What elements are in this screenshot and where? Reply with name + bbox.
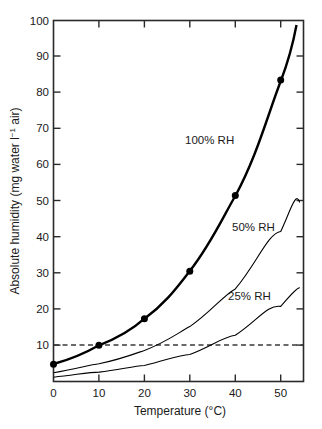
y-axis-title-main: Absolute humidity (mg water l [8, 137, 22, 294]
x-tick-label: 40 [229, 387, 242, 399]
y-tick-label: 90 [36, 50, 49, 62]
annotation-label-25-rh: 25% RH [228, 290, 271, 302]
x-axis-title: Temperature (°C) [134, 404, 226, 418]
y-tick-label: 80 [36, 86, 49, 98]
y-tick-label: 60 [36, 158, 49, 170]
data-point-marker [95, 342, 102, 349]
y-tick-label: 100 [30, 15, 49, 27]
data-point-marker [277, 76, 284, 83]
annotation-label-100-rh: 100% RH [185, 134, 234, 146]
chart-canvas: 100 90 80 70 60 50 40 30 20 10 0 10 20 3… [0, 0, 322, 429]
data-point-marker [141, 315, 148, 322]
x-tick-label: 0 [50, 387, 56, 399]
y-axis-title-tail: air) [8, 107, 22, 128]
data-point-marker [232, 192, 239, 199]
x-tick-label: 20 [138, 387, 151, 399]
x-tick-label: 50 [274, 387, 287, 399]
y-tick-label: 40 [36, 231, 49, 243]
x-tick-label: 30 [183, 387, 196, 399]
y-tick-label: 50 [36, 195, 49, 207]
y-tick-label: 30 [36, 267, 49, 279]
data-point-marker [186, 268, 193, 275]
data-point-marker [50, 361, 57, 368]
y-tick-label: 10 [36, 339, 49, 351]
chart-background [0, 0, 322, 429]
y-tick-label: 20 [36, 303, 49, 315]
y-tick-label: 70 [36, 122, 49, 134]
figure-absolute-humidity-vs-temperature: 100 90 80 70 60 50 40 30 20 10 0 10 20 3… [0, 0, 322, 429]
annotation-label-50-rh: 50% RH [232, 221, 275, 233]
x-tick-label: 10 [93, 387, 106, 399]
